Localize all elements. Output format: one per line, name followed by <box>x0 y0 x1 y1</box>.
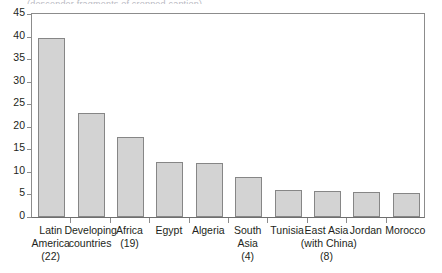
x-axis-category-label-line: (22) <box>25 250 76 263</box>
y-axis-tick-label: 15 <box>13 142 25 153</box>
bar <box>393 193 420 217</box>
x-axis-tick-mark <box>149 218 150 223</box>
x-axis-category-label-line: (with China) <box>301 237 352 250</box>
plot-area <box>31 13 425 218</box>
x-axis-ticks <box>31 218 425 223</box>
y-axis-tick-label: 10 <box>13 165 25 176</box>
x-axis-tick-mark <box>386 218 387 223</box>
x-axis-tick-mark <box>346 218 347 223</box>
y-axis-tick-label: 45 <box>13 7 25 18</box>
bar-series <box>32 14 424 217</box>
x-axis-tick-mark <box>70 218 71 223</box>
y-axis-tick-label: 35 <box>13 52 25 63</box>
x-axis-category-label-line: Asia <box>222 237 273 250</box>
y-axis-tick-label: 25 <box>13 97 25 108</box>
bar <box>196 163 223 217</box>
x-axis-tick-mark <box>228 218 229 223</box>
y-axis-tick-label: 5 <box>19 187 25 198</box>
bar <box>235 177 262 217</box>
x-axis-category-label-line: Morocco <box>380 224 431 237</box>
cropped-caption-text: (descender fragments of cropped caption) <box>27 0 427 4</box>
x-axis-category-label-line: (19) <box>104 237 155 250</box>
y-axis-tick-label: 20 <box>13 120 25 131</box>
x-axis-category-label-line: (4) <box>222 250 273 263</box>
bar <box>275 190 302 217</box>
bar <box>78 113 105 217</box>
bar <box>353 192 380 217</box>
y-axis: 454035302520151050 <box>0 13 31 218</box>
x-axis-tick-mark <box>110 218 111 223</box>
x-axis-tick-mark <box>189 218 190 223</box>
x-axis-tick-mark <box>267 218 268 223</box>
x-axis-category-label: Morocco <box>380 224 431 237</box>
bar-chart: (descender fragments of cropped caption)… <box>0 0 442 273</box>
x-axis-tick-mark <box>307 218 308 223</box>
x-axis-category-label-line: (8) <box>301 250 352 263</box>
bar <box>314 191 341 217</box>
y-axis-tick-label: 30 <box>13 75 25 86</box>
y-axis-tick-label: 40 <box>13 30 25 41</box>
x-axis-labels: LatinAmerica(22)DevelopingcountriesAfric… <box>31 224 425 273</box>
bar <box>117 137 144 217</box>
bar <box>38 38 65 217</box>
bar <box>156 162 183 217</box>
y-axis-tick-label: 0 <box>19 210 25 221</box>
